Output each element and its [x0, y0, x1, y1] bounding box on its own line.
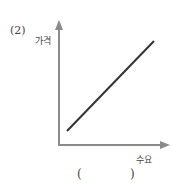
demand-price-line — [67, 41, 154, 131]
y-axis-arrow-icon — [55, 20, 63, 30]
answer-paren-open: ( — [77, 167, 82, 181]
y-axis — [55, 20, 63, 146]
x-axis — [58, 141, 170, 149]
answer-paren-close: ) — [130, 167, 135, 181]
graph — [0, 0, 179, 184]
x-axis-arrow-icon — [160, 141, 170, 149]
